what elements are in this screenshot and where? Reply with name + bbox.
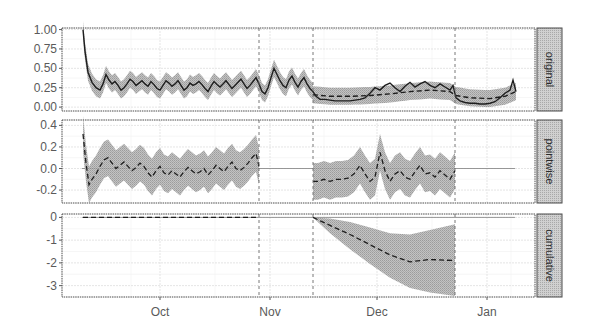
y-tick-label: -1 xyxy=(46,233,57,247)
strip-label: pointwise xyxy=(544,139,556,185)
panel-cumulative: -3-2-10cumulative xyxy=(46,210,562,297)
panel-pointwise: -0.20.00.20.4pointwise xyxy=(36,116,562,203)
y-tick-label: 0 xyxy=(50,210,57,224)
strip-label: original xyxy=(544,52,556,87)
x-tick-label: Dec xyxy=(366,305,387,319)
chart-canvas: 0.000.250.500.751.00original-0.20.00.20.… xyxy=(0,0,589,335)
y-tick-label: 0.2 xyxy=(40,140,57,154)
y-tick-label: 1.00 xyxy=(34,23,58,37)
x-tick-label: Oct xyxy=(151,305,170,319)
y-tick-label: 0.4 xyxy=(40,118,57,132)
y-tick-label: 0.00 xyxy=(34,100,58,114)
y-tick-label: 0.50 xyxy=(34,61,58,75)
y-tick-label: -3 xyxy=(46,279,57,293)
y-tick-label: 0.75 xyxy=(34,42,58,56)
y-tick-label: -2 xyxy=(46,256,57,270)
panel-original: 0.000.250.500.751.00original xyxy=(34,21,562,114)
y-tick-label: 0.25 xyxy=(34,81,58,95)
y-tick-label: 0.0 xyxy=(40,162,57,176)
strip-label: cumulative xyxy=(544,229,556,282)
x-tick-label: Jan xyxy=(477,305,496,319)
x-tick-label: Nov xyxy=(259,305,280,319)
y-tick-label: -0.2 xyxy=(36,183,57,197)
